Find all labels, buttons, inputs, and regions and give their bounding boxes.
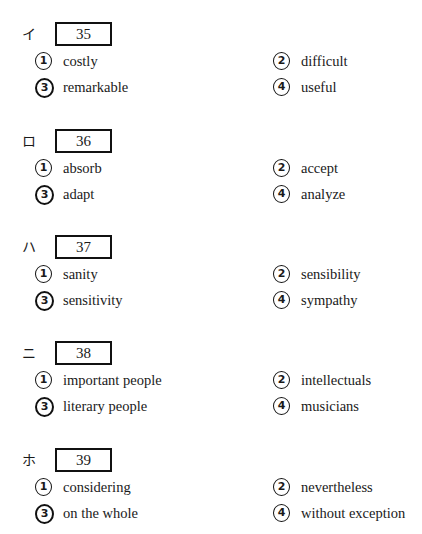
circled-number-icon: 1 [35, 52, 52, 70]
answer-box[interactable]: 38 [55, 341, 112, 365]
question-mark: ロ [22, 132, 36, 150]
option-text: on the whole [63, 504, 138, 523]
circled-number-icon: 3 [35, 291, 54, 311]
circled-number-icon: 3 [35, 504, 54, 524]
option-text: considering [63, 478, 131, 497]
option-text: adapt [63, 185, 94, 204]
option-text: accept [301, 159, 338, 178]
circled-number-icon: 1 [35, 478, 52, 496]
circled-number-icon: 4 [273, 504, 290, 522]
circled-number-icon: 2 [273, 159, 290, 177]
option-text: sympathy [301, 291, 357, 310]
circled-number-icon: 4 [273, 397, 290, 415]
circled-number-icon: 1 [35, 265, 52, 283]
question-header: ホ 39 [0, 448, 200, 472]
option-text: sanity [63, 265, 98, 284]
option-text: absorb [63, 159, 102, 178]
option-text: musicians [301, 397, 359, 416]
option-text: costly [63, 52, 98, 71]
option-text: literary people [63, 397, 147, 416]
question-mark: ホ [22, 451, 36, 469]
question-mark: ハ [22, 238, 36, 256]
question-header: イ 35 [0, 22, 200, 46]
question-header: ニ 38 [0, 341, 200, 365]
circled-number-icon: 3 [35, 78, 54, 98]
option-text: analyze [301, 185, 345, 204]
circled-number-icon: 2 [273, 52, 290, 70]
circled-number-icon: 3 [35, 397, 54, 417]
circled-number-icon: 2 [273, 478, 290, 496]
answer-box[interactable]: 39 [55, 448, 112, 472]
option-text: sensibility [301, 265, 361, 284]
circled-number-icon: 1 [35, 159, 52, 177]
option-text: nevertheless [301, 478, 373, 497]
answer-box[interactable]: 36 [55, 129, 112, 153]
option-text: intellectuals [301, 371, 371, 390]
option-text: sensitivity [63, 291, 123, 310]
question-header: ロ 36 [0, 129, 200, 153]
circled-number-icon: 4 [273, 291, 290, 309]
answer-box[interactable]: 35 [55, 22, 112, 46]
answer-box[interactable]: 37 [55, 235, 112, 259]
option-text: useful [301, 78, 336, 97]
circled-number-icon: 1 [35, 371, 52, 389]
option-text: without exception [301, 504, 405, 523]
question-mark: ニ [22, 344, 36, 362]
question-header: ハ 37 [0, 235, 200, 259]
question-mark: イ [22, 25, 36, 43]
circled-number-icon: 2 [273, 371, 290, 389]
circled-number-icon: 2 [273, 265, 290, 283]
circled-number-icon: 4 [273, 78, 290, 96]
circled-number-icon: 4 [273, 185, 290, 203]
option-text: remarkable [63, 78, 128, 97]
option-text: important people [63, 371, 162, 390]
circled-number-icon: 3 [35, 185, 54, 205]
option-text: difficult [301, 52, 347, 71]
